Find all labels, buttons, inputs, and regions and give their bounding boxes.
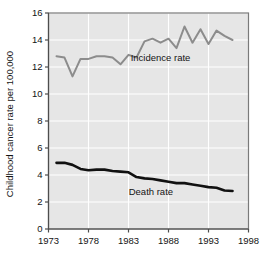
y-axis-tick-label: 4 [37,169,42,180]
series-label-incidence-rate: Incidence rate [131,52,191,63]
y-axis-tick-label: 12 [32,61,43,72]
chart-container: 0246810121416 197319781983198819931998 C… [0,0,261,257]
x-axis-tick-label: 1998 [238,235,259,246]
x-axis-tick-label: 1988 [158,235,179,246]
plot-area [49,13,249,229]
x-axis-tick-label: 1993 [198,235,219,246]
y-axis-tick-label: 0 [37,223,42,234]
y-axis-title: Childhood cancer rate per 100,000 [4,51,15,197]
y-axis-tick-label: 6 [37,142,42,153]
series-label-death-rate: Death rate [129,186,173,197]
y-axis-tick-label: 8 [37,115,42,126]
x-axis-tick-label: 1973 [38,235,59,246]
y-axis-tick-label: 2 [37,196,42,207]
y-axis-tick-label: 16 [32,7,43,18]
y-axis-tick-label: 14 [32,34,43,45]
y-axis-tick-label: 10 [32,88,43,99]
childhood-cancer-rate-line-chart: 0246810121416 197319781983198819931998 C… [0,0,261,257]
x-axis-tick-label: 1978 [78,235,99,246]
x-axis-tick-label: 1983 [118,235,139,246]
